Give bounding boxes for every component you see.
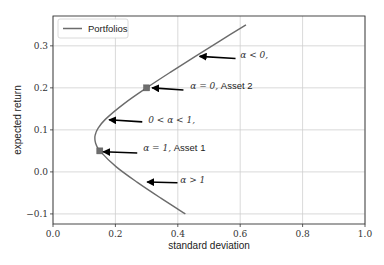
x-tick-label: 0.6 [233,229,248,239]
annotation-math: α > 1 [180,175,205,185]
y-tick-label: −0.1 [26,209,48,219]
y-tick-label: 0.0 [34,167,49,177]
tick-labels: 0.00.20.40.60.81.0−0.10.00.10.20.3 [26,41,372,239]
y-tick-label: 0.2 [34,83,48,93]
asset-2-marker [144,85,150,91]
annotation-arrow [109,120,142,122]
annotation-text: 0 < α < 1, [148,115,195,125]
legend-label: Portfolios [88,23,128,34]
annotation-text: α = 1, Asset 1 [143,142,205,153]
x-tick-label: 0.8 [295,229,310,239]
annotation-math: α = 1, [143,143,171,153]
x-axis-label: standard deviation [168,240,250,251]
annotation-arrow [200,56,236,58]
annotation-label: Asset 1 [171,142,205,153]
annotation-math: α < 0, [240,50,268,60]
x-tick-label: 1.0 [358,229,373,239]
annotation-label: Asset 2 [218,80,252,91]
annotation-layer: α < 0,α = 0, Asset 20 < α < 1,α = 1, Ass… [103,50,268,185]
x-tick-label: 0.0 [46,229,61,239]
legend: Portfolios [58,19,128,38]
annotation-arrow [147,182,177,183]
asset-1-marker [97,148,103,154]
x-tick-label: 0.4 [171,229,186,239]
annotation-math: α = 0, [190,81,218,91]
annotation-text: α > 1 [180,175,205,185]
y-tick-label: 0.3 [34,41,49,51]
x-tick-label: 0.2 [108,229,122,239]
efficient-frontier-chart: α < 0,α = 0, Asset 20 < α < 1,α = 1, Ass… [0,0,384,265]
y-tick-label: 0.1 [34,125,48,135]
annotation-arrow [103,152,137,153]
annotation-math: 0 < α < 1, [148,115,195,125]
annotation-text: α = 0, Asset 2 [190,80,252,91]
annotation-text: α < 0, [240,50,268,60]
y-axis-label: expected return [12,85,23,155]
